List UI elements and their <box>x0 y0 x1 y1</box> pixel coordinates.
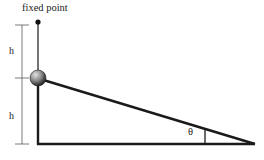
height-label-upper: h <box>9 46 14 56</box>
pendulum-diagram: fixed point h h θ <box>0 0 264 160</box>
fixed-point-dot-icon <box>35 19 40 24</box>
height-label-lower: h <box>9 111 14 121</box>
hypotenuse-line <box>40 79 255 144</box>
angle-theta-label: θ <box>188 127 193 138</box>
fixed-point-label: fixed point <box>22 3 68 14</box>
pendulum-bob-sphere-icon <box>30 70 46 86</box>
diagram-canvas <box>0 0 264 160</box>
